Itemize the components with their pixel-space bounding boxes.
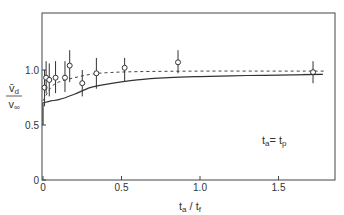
open-circle-marker bbox=[176, 60, 181, 65]
data-point bbox=[122, 58, 127, 81]
open-circle-marker bbox=[62, 75, 67, 80]
y-tick-label: 0 bbox=[33, 175, 39, 186]
data-point bbox=[80, 70, 85, 96]
x-tick-label: 0.5 bbox=[115, 182, 129, 193]
data-point bbox=[176, 50, 181, 73]
annotation-ta-equals-tp: ta= tp bbox=[262, 134, 287, 148]
data-point bbox=[311, 61, 316, 83]
x-tick-label: 1.5 bbox=[272, 182, 286, 193]
plot-frame bbox=[42, 13, 335, 180]
y-tick-label: 0.5 bbox=[25, 120, 39, 131]
x-axis-ticks: 00.51.01.5 bbox=[40, 176, 286, 193]
open-circle-marker bbox=[47, 77, 52, 82]
open-circle-marker bbox=[122, 65, 127, 70]
data-point bbox=[47, 63, 52, 96]
open-circle-marker bbox=[67, 63, 72, 68]
x-tick-label: 1.0 bbox=[193, 182, 207, 193]
data-points bbox=[42, 50, 323, 106]
x-axis-label: ta / tf bbox=[179, 200, 202, 214]
x-tick-label: 0 bbox=[40, 182, 46, 193]
chart: 00.51.01.5 00.51.0 ta / tf v̄d v∞ ta= tp bbox=[0, 0, 344, 215]
open-circle-marker bbox=[53, 75, 58, 80]
y-tick-label: 1.0 bbox=[25, 65, 39, 76]
svg-text:v∞: v∞ bbox=[8, 98, 20, 112]
y-axis-label: v̄d v∞ bbox=[6, 82, 22, 112]
open-circle-marker bbox=[94, 71, 99, 76]
open-circle-marker bbox=[80, 81, 85, 86]
svg-text:v̄d: v̄d bbox=[9, 82, 19, 96]
data-point bbox=[53, 61, 58, 93]
data-point bbox=[94, 58, 99, 89]
